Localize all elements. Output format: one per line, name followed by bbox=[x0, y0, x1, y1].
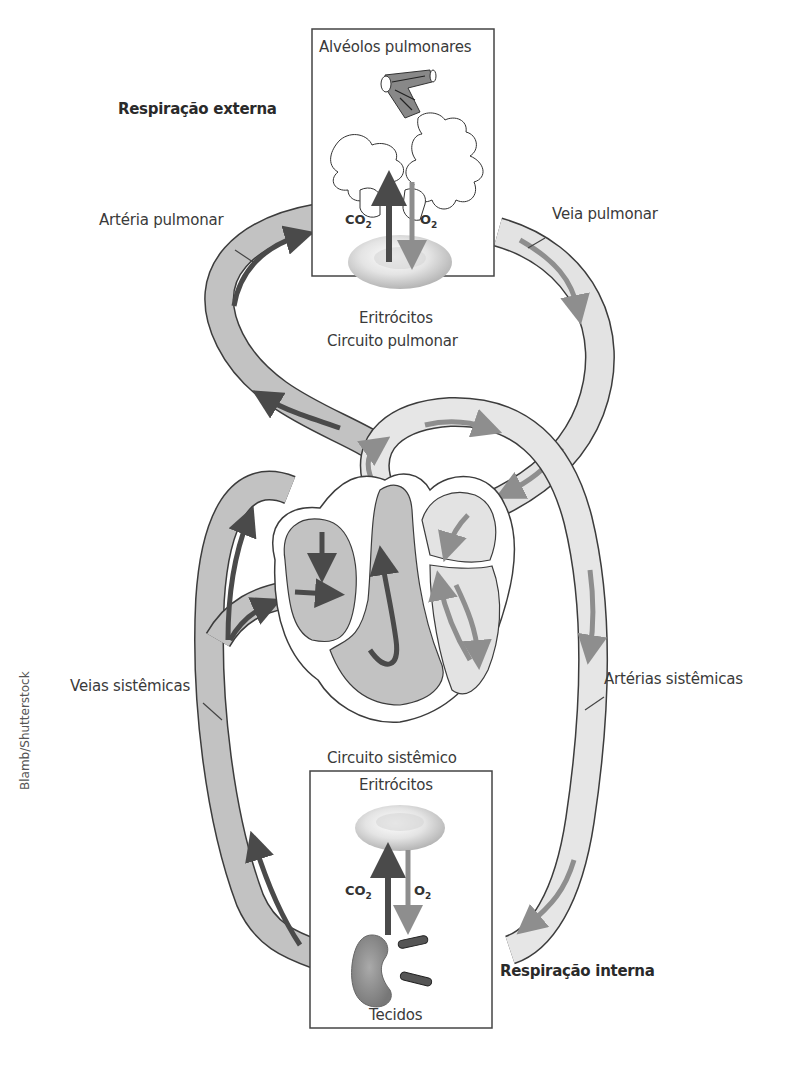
pulmonary-circuit-label: Circuito pulmonar bbox=[327, 332, 458, 350]
co2-label-top: CO2 bbox=[345, 212, 372, 230]
external-respiration-label: Respiração externa bbox=[118, 100, 277, 118]
systemic-arteries-label: Artérias sistêmicas bbox=[604, 670, 743, 688]
heart bbox=[273, 474, 515, 722]
tissues-label: Tecidos bbox=[369, 1006, 422, 1024]
pulmonary-vein-label: Veia pulmonar bbox=[552, 205, 658, 223]
o2-label-bottom: O2 bbox=[414, 883, 431, 901]
internal-respiration-label: Respiração interna bbox=[500, 962, 655, 980]
pulmonary-box bbox=[312, 29, 494, 289]
image-credit: Blamb/Shutterstock bbox=[18, 671, 32, 790]
circulation-diagram bbox=[0, 0, 793, 1066]
systemic-box bbox=[310, 771, 492, 1028]
pulmonary-artery-label: Artéria pulmonar bbox=[99, 211, 223, 229]
systemic-veins-label: Veias sistêmicas bbox=[70, 677, 190, 695]
o2-label-top: O2 bbox=[420, 212, 437, 230]
erythrocytes-top-label: Eritrócitos bbox=[359, 309, 433, 327]
co2-label-bottom: CO2 bbox=[345, 883, 372, 901]
systemic-circuit-label: Circuito sistêmico bbox=[327, 749, 457, 767]
erythrocytes-bottom-label: Eritrócitos bbox=[359, 776, 433, 794]
pulmonary-alveoli-label: Alvéolos pulmonares bbox=[319, 38, 471, 56]
